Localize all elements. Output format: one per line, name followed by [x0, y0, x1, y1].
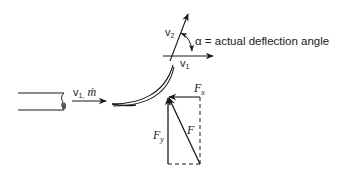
- inlet-velocity-label: v1, ṁ: [73, 86, 96, 99]
- fx-label: Fx: [194, 82, 205, 97]
- nozzle-pipe: [18, 93, 66, 110]
- force-diagram: [168, 97, 200, 164]
- inlet-v-sub: 1,: [79, 92, 85, 99]
- v2-label: v2: [165, 27, 174, 39]
- v2-sub: 2: [171, 32, 175, 39]
- mass-flow-rate: ṁ: [87, 85, 96, 99]
- f-resultant-vector: [169, 98, 200, 164]
- curved-vane: [112, 65, 174, 106]
- f-resultant-label: F: [187, 124, 194, 136]
- v1-sub: 1: [186, 63, 190, 70]
- alpha-angle-arc: [181, 33, 192, 51]
- fy-sub: y: [160, 135, 164, 144]
- v1-exit-label: v1: [180, 58, 189, 70]
- alpha-definition-label: α = actual deflection angle: [195, 36, 329, 48]
- fx-sub: x: [201, 88, 205, 97]
- fy-label: Fy: [153, 129, 164, 144]
